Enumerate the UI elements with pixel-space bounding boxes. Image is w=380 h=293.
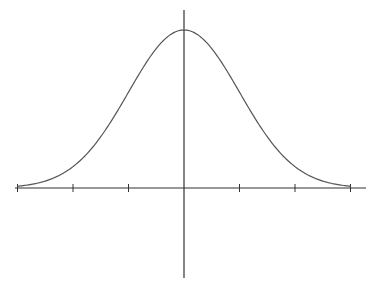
- normal-distribution-chart: [0, 0, 380, 293]
